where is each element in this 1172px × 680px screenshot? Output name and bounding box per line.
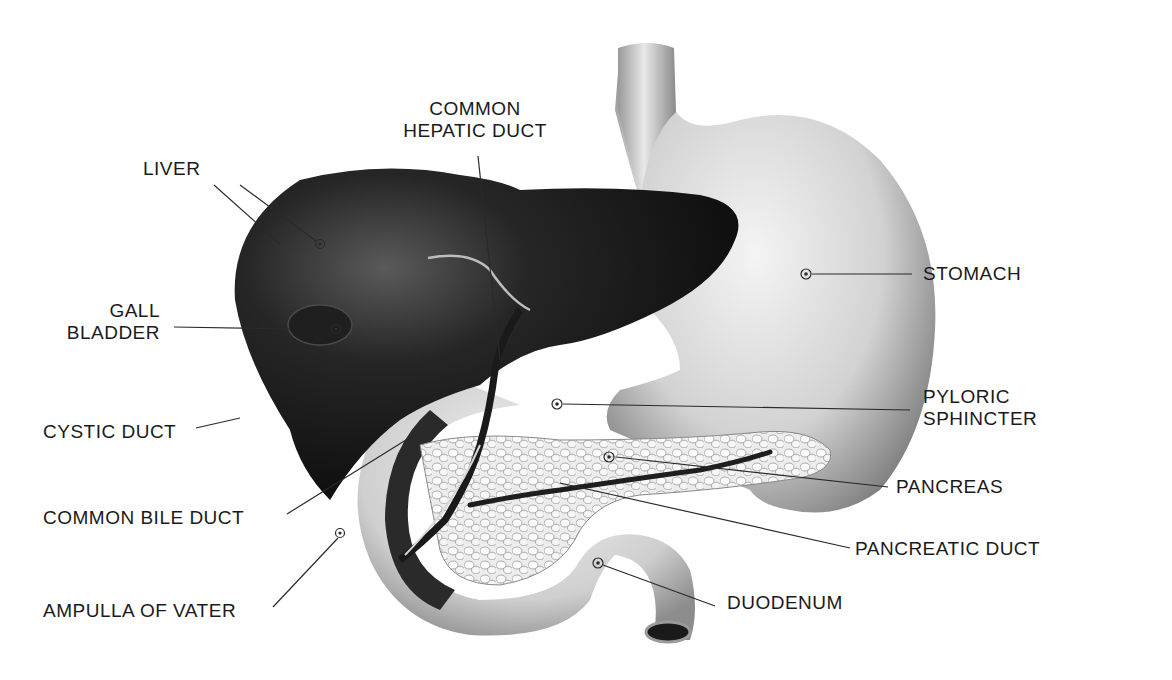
label-common-hepatic-duct-line1: COMMON bbox=[365, 98, 585, 120]
label-liver: LIVER bbox=[143, 158, 200, 180]
label-gall-bladder: GALL BLADDER bbox=[40, 300, 160, 344]
label-pancreas: PANCREAS bbox=[896, 476, 1003, 498]
illustration bbox=[0, 0, 1172, 680]
label-gall-bladder-line2: BLADDER bbox=[40, 322, 160, 344]
label-common-hepatic-duct: COMMON HEPATIC DUCT bbox=[365, 98, 585, 142]
label-ampulla-of-vater: AMPULLA OF VATER bbox=[43, 600, 236, 622]
label-pancreatic-duct: PANCREATIC DUCT bbox=[855, 538, 1040, 560]
label-pyloric-sphincter-line1: PYLORIC bbox=[923, 386, 1037, 408]
pancreas-shape bbox=[420, 431, 831, 585]
label-duodenum: DUODENUM bbox=[727, 592, 843, 614]
label-pyloric-sphincter-line2: SPHINCTER bbox=[923, 408, 1037, 430]
label-stomach: STOMACH bbox=[923, 263, 1021, 285]
label-pyloric-sphincter: PYLORIC SPHINCTER bbox=[923, 386, 1037, 430]
label-common-bile-duct: COMMON BILE DUCT bbox=[43, 507, 244, 529]
label-gall-bladder-line1: GALL bbox=[40, 300, 160, 322]
label-common-hepatic-duct-line2: HEPATIC DUCT bbox=[365, 120, 585, 142]
anatomy-diagram: COMMON HEPATIC DUCT LIVER GALL BLADDER C… bbox=[0, 0, 1172, 680]
label-cystic-duct: CYSTIC DUCT bbox=[43, 421, 176, 443]
